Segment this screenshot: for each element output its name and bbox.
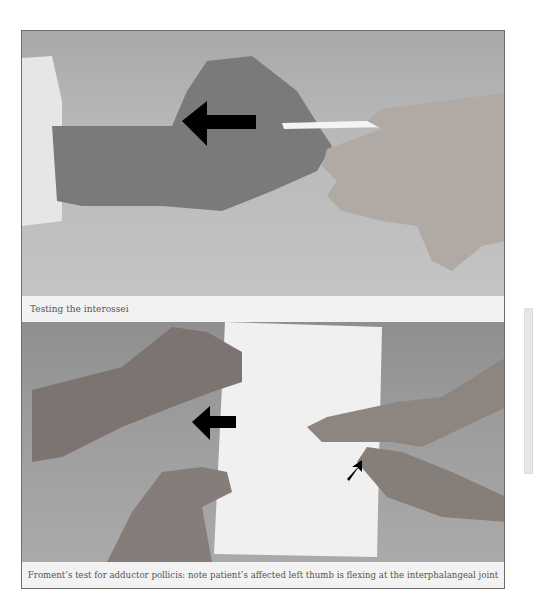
patient-left-hand	[32, 327, 242, 462]
patient-hand	[52, 56, 332, 211]
examiner-hand	[322, 93, 504, 271]
figure-caption: Froment’s test for adductor pollicis: no…	[22, 562, 504, 588]
hands-illustration	[22, 322, 504, 562]
patient-right-hand	[107, 467, 232, 562]
figure-interossei: Testing the interossei	[21, 30, 505, 323]
examiner-left-hand	[357, 447, 504, 522]
figure-froment: Froment’s test for adductor pollicis: no…	[21, 322, 505, 589]
hands-illustration	[22, 31, 504, 297]
photo-froment-test	[22, 322, 504, 563]
side-tab-bar	[524, 308, 533, 474]
figure-caption: Testing the interossei	[22, 296, 504, 322]
photo-interossei-test	[22, 31, 504, 298]
